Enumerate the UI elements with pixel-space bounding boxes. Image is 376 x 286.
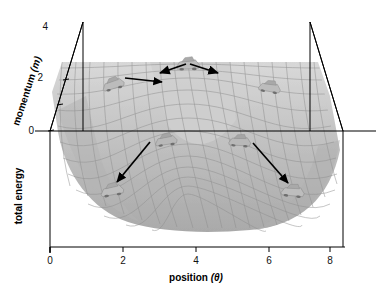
svg-text:momentum (m): momentum (m) (10, 54, 43, 127)
momentum-tick-0: 0 (28, 125, 34, 136)
position-axis-ticks (50, 247, 330, 252)
position-axis-label-group: position (θ) (169, 272, 224, 283)
momentum-tick-4: 4 (42, 21, 48, 32)
position-tick-4: 4 (193, 255, 199, 266)
momentum-axis-label: momentum (10, 72, 37, 127)
momentum-axis-label-group: momentum (m) (10, 54, 43, 127)
car-barrier-top (176, 57, 199, 71)
position-tick-6: 6 (266, 255, 272, 266)
plot-canvas: 4 2 0 0 2 4 6 8 momentum (m) total energ… (0, 0, 376, 286)
figure-container: 4 2 0 0 2 4 6 8 momentum (m) total energ… (0, 0, 376, 286)
position-tick-0: 0 (47, 255, 53, 266)
momentum-tick-2: 2 (37, 72, 43, 83)
position-tick-8: 8 (327, 255, 333, 266)
position-tick-2: 2 (120, 255, 126, 266)
energy-axis-label: total energy (13, 167, 24, 224)
position-axis-label: position (169, 272, 208, 283)
energy-axis-label-group: total energy (13, 167, 24, 224)
momentum-axis-symbol: (m) (28, 54, 43, 73)
position-axis-symbol: (θ) (211, 272, 224, 283)
